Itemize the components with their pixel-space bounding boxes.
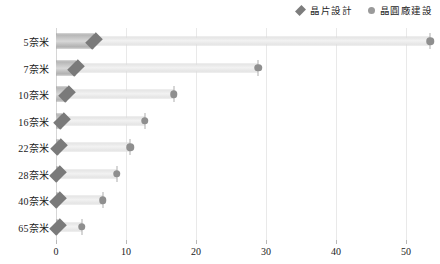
chart-row: 40奈米 [56, 187, 436, 214]
bar-fab-construction [56, 37, 430, 46]
marker-chip-design [49, 218, 67, 236]
marker-fab-construction [170, 91, 178, 99]
legend-entry-fab-construction: 晶圓廠建設 [368, 3, 432, 17]
marker-fab-construction [126, 144, 134, 152]
x-tick-label: 50 [401, 246, 411, 257]
x-tick-mark [406, 240, 407, 244]
y-axis-label: 5奈米 [23, 34, 49, 49]
marker-fab-construction [254, 64, 262, 72]
marker-fab-construction [99, 197, 107, 205]
chart-row: 16奈米 [56, 108, 436, 135]
legend-label-chip-design: 晶片設計 [310, 3, 352, 17]
marker-fab-construction [78, 223, 86, 231]
chart-row: 22奈米 [56, 134, 436, 161]
chart-row: 10奈米 [56, 81, 436, 108]
marker-fab-construction [113, 170, 121, 178]
x-tick-label: 30 [261, 246, 271, 257]
x-tick-label: 20 [191, 246, 201, 257]
legend-label-fab-construction: 晶圓廠建設 [380, 3, 432, 17]
marker-chip-design [49, 165, 67, 183]
x-tick-mark [266, 240, 267, 244]
chart-row: 7奈米 [56, 55, 436, 82]
y-axis-label: 22奈米 [18, 140, 49, 155]
chart-legend: 晶片設計 晶圓廠建設 [0, 2, 440, 18]
y-axis-label: 28奈米 [18, 166, 49, 181]
y-axis-label: 10奈米 [18, 87, 49, 102]
x-tick-label: 0 [54, 246, 59, 257]
x-tick-mark [336, 240, 337, 244]
chart-row: 65奈米 [56, 214, 436, 241]
marker-chip-design [51, 138, 69, 156]
y-axis-label: 7奈米 [23, 60, 49, 75]
x-tick-mark [56, 240, 57, 244]
diamond-icon [295, 5, 306, 16]
bar-fab-construction [56, 63, 258, 72]
y-axis-label: 40奈米 [18, 193, 49, 208]
x-tick-label: 40 [331, 246, 341, 257]
circle-icon [368, 7, 375, 14]
x-tick-mark [196, 240, 197, 244]
chart-row: 5奈米 [56, 28, 436, 55]
x-tick-label: 10 [121, 246, 131, 257]
y-axis-label: 65奈米 [18, 219, 49, 234]
bar-rows: 5奈米7奈米10奈米16奈米22奈米28奈米40奈米65奈米 [56, 28, 436, 240]
x-axis: 01020304050 [56, 240, 436, 264]
x-tick-mark [126, 240, 127, 244]
plot-area: 5奈米7奈米10奈米16奈米22奈米28奈米40奈米65奈米 [56, 28, 436, 240]
marker-fab-construction [141, 117, 149, 125]
legend-entry-chip-design: 晶片設計 [296, 3, 352, 17]
marker-fab-construction [427, 38, 435, 46]
chart-row: 28奈米 [56, 161, 436, 188]
marker-chip-design [49, 191, 67, 209]
y-axis-label: 16奈米 [18, 113, 49, 128]
